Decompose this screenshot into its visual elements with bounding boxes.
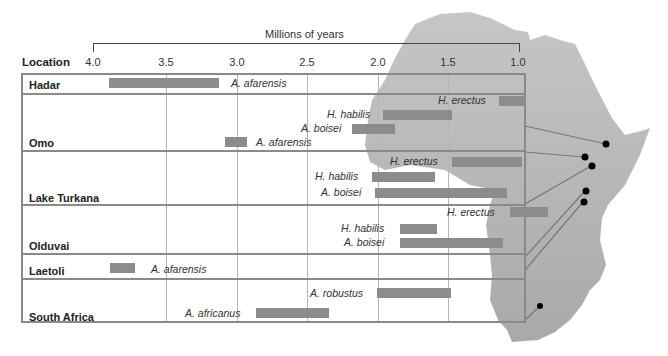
site-marker-south-africa xyxy=(537,303,543,309)
range-bar xyxy=(400,224,437,234)
species-label: H. habilis xyxy=(315,170,358,182)
location-label: Lake Turkana xyxy=(29,192,99,204)
x-tick: 4.0 xyxy=(85,56,100,68)
species-label: H. habilis xyxy=(341,222,384,234)
x-tick: 3.0 xyxy=(229,56,244,68)
site-marker-omo xyxy=(582,154,589,161)
location-column-header: Location xyxy=(22,56,70,68)
site-marker-lake-turkana xyxy=(589,163,596,170)
gridline xyxy=(378,74,379,322)
species-label: A. boisei xyxy=(301,122,341,134)
location-label: Omo xyxy=(29,137,54,149)
species-label: A. boisei xyxy=(344,236,384,248)
range-bar xyxy=(400,238,503,248)
x-tick: 3.5 xyxy=(158,56,173,68)
species-label: H. habilis xyxy=(327,108,370,120)
x-tick: 1.5 xyxy=(440,56,455,68)
row-divider xyxy=(21,321,526,323)
axis-bracket xyxy=(93,43,520,52)
range-bar xyxy=(510,207,548,217)
location-label: South Africa xyxy=(29,311,94,323)
species-label: H. erectus xyxy=(447,206,495,218)
range-bar xyxy=(352,124,395,134)
species-label: H. erectus xyxy=(390,155,438,167)
frame-right xyxy=(524,74,526,323)
row-divider xyxy=(21,73,526,75)
row-divider xyxy=(21,150,526,152)
range-bar xyxy=(375,188,507,198)
location-label: Olduvai xyxy=(29,240,69,252)
site-marker-hadar xyxy=(603,141,610,148)
species-label: A. robustus xyxy=(310,287,363,299)
range-bar xyxy=(109,78,219,88)
species-label: A. afarensis xyxy=(151,263,206,275)
location-label: Laetoli xyxy=(29,265,64,277)
site-marker-olduvai xyxy=(583,188,590,195)
range-bar xyxy=(372,172,435,182)
range-bar xyxy=(377,288,451,298)
gridline xyxy=(237,74,238,322)
x-tick: 2.5 xyxy=(299,56,314,68)
range-bar xyxy=(110,263,135,273)
species-label: A. afarensis xyxy=(256,136,311,148)
gridline xyxy=(166,74,167,322)
range-bar xyxy=(383,110,452,120)
species-label: A. boisei xyxy=(321,186,361,198)
gridline xyxy=(307,74,308,322)
species-label: A. afarensis xyxy=(231,77,286,89)
row-divider xyxy=(21,253,526,255)
species-label: A. africanus xyxy=(185,307,240,319)
range-bar xyxy=(225,137,247,147)
range-bar xyxy=(452,157,522,167)
range-bar xyxy=(256,308,329,318)
x-tick: 1.0 xyxy=(510,56,525,68)
row-divider xyxy=(21,278,526,280)
site-marker-laetoli xyxy=(581,199,588,206)
range-bar xyxy=(499,96,525,106)
location-label: Hadar xyxy=(29,79,60,91)
axis-title: Millions of years xyxy=(265,28,344,40)
species-label: H. erectus xyxy=(438,94,486,106)
x-tick: 2.0 xyxy=(370,56,385,68)
frame-left xyxy=(21,74,23,323)
